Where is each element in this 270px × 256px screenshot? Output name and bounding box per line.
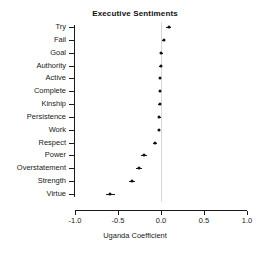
y-axis-tick bbox=[69, 194, 74, 195]
coefficient-plot: Executive Sentiments TryFailGoalAuthorit… bbox=[0, 0, 270, 256]
y-axis-tick bbox=[69, 181, 74, 182]
x-axis-tick-label: 0.5 bbox=[199, 216, 209, 225]
y-axis-tick bbox=[69, 130, 74, 131]
data-point-authority bbox=[159, 64, 162, 67]
y-axis-label-power: Power bbox=[45, 151, 66, 159]
data-point-virtue bbox=[109, 193, 112, 196]
x-axis-tick-label: -0.5 bbox=[112, 216, 125, 225]
y-axis-label-virtue: Virtue bbox=[47, 190, 66, 198]
y-axis-label-fail: Fail bbox=[54, 36, 66, 44]
data-point-kinship bbox=[158, 103, 161, 106]
data-point-active bbox=[159, 77, 162, 80]
y-axis-label-kinship: Kinship bbox=[41, 100, 66, 108]
chart-title: Executive Sentiments bbox=[0, 9, 270, 18]
y-axis-tick bbox=[69, 91, 74, 92]
data-point-power bbox=[142, 154, 145, 157]
data-point-try bbox=[167, 26, 170, 29]
y-axis-tick bbox=[69, 53, 74, 54]
y-axis-tick bbox=[69, 78, 74, 79]
x-axis-tick bbox=[247, 211, 248, 215]
data-point-overstatement bbox=[137, 167, 140, 170]
data-point-goal bbox=[160, 51, 163, 54]
y-axis-tick bbox=[69, 168, 74, 169]
x-axis-tick-label: 0.0 bbox=[156, 216, 166, 225]
y-axis-label-complete: Complete bbox=[34, 87, 66, 95]
y-axis-tick bbox=[69, 66, 74, 67]
y-axis-label-try: Try bbox=[55, 23, 66, 31]
y-axis-label-goal: Goal bbox=[50, 49, 66, 57]
y-axis-label-work: Work bbox=[49, 126, 66, 134]
x-axis-tick bbox=[204, 211, 205, 215]
zero-reference-line bbox=[161, 22, 162, 202]
y-axis-tick bbox=[69, 104, 74, 105]
y-axis-label-respect: Respect bbox=[38, 139, 66, 147]
y-axis-label-active: Active bbox=[46, 74, 66, 82]
y-axis-tick bbox=[69, 40, 74, 41]
x-axis-tick bbox=[75, 211, 76, 215]
data-point-strength bbox=[130, 180, 133, 183]
x-axis-tick-label: -1.0 bbox=[69, 216, 82, 225]
x-axis-tick-label: 1.0 bbox=[242, 216, 252, 225]
data-point-work bbox=[157, 128, 160, 131]
data-point-complete bbox=[159, 90, 162, 93]
data-point-persistence bbox=[158, 115, 161, 118]
x-axis-tick bbox=[161, 211, 162, 215]
y-axis-label-authority: Authority bbox=[36, 62, 66, 70]
y-axis-label-overstatement: Overstatement bbox=[17, 164, 66, 172]
y-axis-label-persistence: Persistence bbox=[27, 113, 66, 121]
x-axis-title: Uganda Coefficient bbox=[0, 231, 270, 240]
y-axis-label-strength: Strength bbox=[38, 177, 66, 185]
y-axis-tick bbox=[69, 143, 74, 144]
x-axis-tick bbox=[118, 211, 119, 215]
plot-panel bbox=[75, 22, 247, 202]
y-axis-tick bbox=[69, 117, 74, 118]
y-axis-tick bbox=[69, 27, 74, 28]
data-point-respect bbox=[153, 141, 156, 144]
data-point-fail bbox=[162, 38, 165, 41]
y-axis-tick bbox=[69, 155, 74, 156]
